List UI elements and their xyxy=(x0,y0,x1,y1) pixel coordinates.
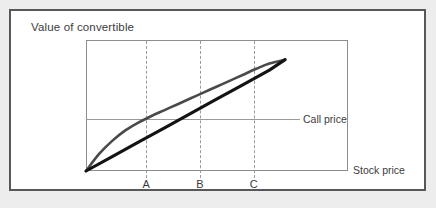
figure-container: Value of convertible Call price Stock pr… xyxy=(0,0,436,208)
plot-area xyxy=(86,40,348,171)
x-axis-label: Stock price xyxy=(353,164,405,176)
x-tick-label-b: B xyxy=(196,178,203,190)
vline-c xyxy=(254,41,255,178)
vline-b xyxy=(200,41,201,178)
call-price-label: Call price xyxy=(303,113,347,125)
x-tick-label-a: A xyxy=(143,178,150,190)
call-price-reference-line xyxy=(86,119,300,120)
vline-a xyxy=(146,41,147,178)
page-title: Value of convertible xyxy=(31,21,134,33)
x-tick-label-c: C xyxy=(250,178,258,190)
